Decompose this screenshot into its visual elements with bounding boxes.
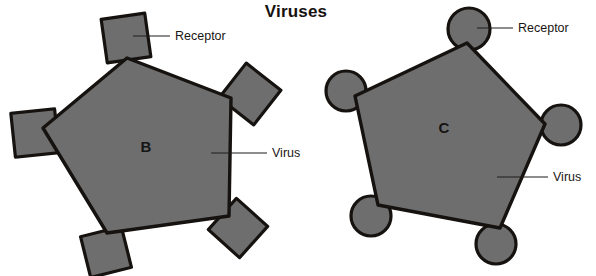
panel-b: B Receptor Virus xyxy=(11,13,300,276)
virus-label-c: Virus xyxy=(553,170,581,184)
panel-c: C Receptor Virus xyxy=(326,8,581,264)
receptor-label-b: Receptor xyxy=(175,29,226,43)
receptor-circle-bottom-right xyxy=(476,224,516,264)
receptor-label-c: Receptor xyxy=(518,21,569,35)
panel-letter-c: C xyxy=(439,119,450,136)
panel-letter-b: B xyxy=(141,138,152,155)
viruses-figure: Viruses B Receptor Virus xyxy=(0,0,596,276)
receptor-square-top xyxy=(101,13,151,63)
receptor-circle-right xyxy=(541,105,581,145)
virus-label-b: Virus xyxy=(272,146,300,160)
figure-title: Viruses xyxy=(265,2,328,21)
virus-body-pentagon-b xyxy=(43,58,231,233)
figure-canvas: Viruses B Receptor Virus xyxy=(0,0,596,276)
virus-body-pentagon-c xyxy=(355,43,545,228)
